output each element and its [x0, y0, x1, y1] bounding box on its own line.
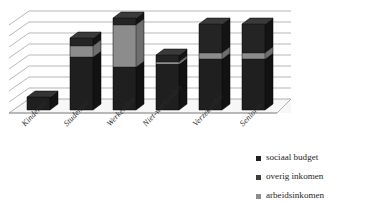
chart-container: Kinderen Studenten Werkenden Niet-werken… — [0, 0, 369, 216]
legend-item-overig-inkomen: overig inkomen — [256, 171, 368, 183]
legend-item-arbeidsinkomen: arbeidsinkomen — [256, 190, 368, 202]
legend-swatch-overig-inkomen — [256, 175, 261, 180]
legend-label-overig-inkomen: overig inkomen — [266, 172, 323, 181]
legend-label-sociaal-budget: sociaal budget — [266, 153, 318, 162]
legend-swatch-sociaal-budget — [256, 156, 261, 161]
chart-legend: sociaal budget overig inkomen arbeidsink… — [256, 152, 368, 209]
legend-label-arbeidsinkomen: arbeidsinkomen — [266, 191, 324, 200]
bar-senioren — [242, 18, 273, 110]
legend-item-sociaal-budget: sociaal budget — [256, 152, 368, 164]
legend-swatch-arbeidsinkomen — [256, 194, 261, 199]
